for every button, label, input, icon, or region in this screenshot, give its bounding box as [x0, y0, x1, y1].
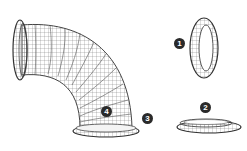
- callout-1: 1: [174, 38, 185, 49]
- parts-illustration: [0, 0, 247, 151]
- callout-4: 4: [101, 106, 112, 117]
- elbow-bottom-flange: [73, 124, 139, 137]
- callout-3: 3: [142, 113, 153, 124]
- upright-ring: [190, 18, 218, 78]
- elbow-pipe: [22, 24, 132, 128]
- flat-flange-ring: [177, 119, 241, 133]
- elbow-top-flange: [13, 20, 27, 80]
- callout-2: 2: [200, 102, 211, 113]
- diagram-canvas: 1 2 3 4: [0, 0, 247, 151]
